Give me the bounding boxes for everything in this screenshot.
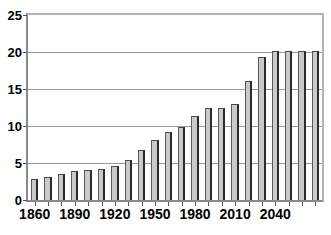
- bar: [191, 116, 198, 200]
- bar: [58, 174, 65, 200]
- x-axis-tick-label: 1890: [53, 207, 97, 221]
- y-axis-tick-label: 20: [0, 46, 22, 59]
- bar: [258, 57, 265, 200]
- y-axis-tick-label: 25: [0, 9, 22, 22]
- bar: [111, 166, 118, 200]
- bar: [71, 171, 78, 200]
- bar: [272, 51, 279, 200]
- bar-chart: 0510152025 1860189019201950198020102040: [0, 0, 331, 235]
- bar: [44, 177, 51, 200]
- bar: [218, 108, 225, 200]
- x-axis-tick-label: 1950: [133, 207, 177, 221]
- bar: [151, 140, 158, 200]
- bar: [125, 160, 132, 200]
- x-axis-tick: [315, 202, 316, 206]
- bar: [138, 150, 145, 200]
- x-axis-tick-label: 1980: [173, 207, 217, 221]
- y-axis-tick-label: 15: [0, 83, 22, 96]
- bar: [31, 179, 38, 200]
- x-axis-tick-label: 2040: [253, 207, 297, 221]
- y-axis-tick-label: 5: [0, 157, 22, 170]
- x-axis-tick-label: 1920: [93, 207, 137, 221]
- plot-area: [26, 13, 324, 202]
- bar: [84, 170, 91, 200]
- bar: [312, 51, 319, 200]
- bar: [178, 127, 185, 200]
- bar: [205, 108, 212, 201]
- x-axis-tick-label: 2010: [213, 207, 257, 221]
- y-axis-tick-label: 10: [0, 120, 22, 133]
- bar: [98, 169, 105, 200]
- bar: [165, 132, 172, 200]
- bar: [298, 51, 305, 200]
- x-axis-tick-label: 1860: [13, 207, 57, 221]
- bar: [285, 51, 292, 200]
- bar: [231, 104, 238, 200]
- bars-layer: [28, 15, 322, 200]
- x-axis-tick: [302, 202, 303, 206]
- bar: [245, 81, 252, 200]
